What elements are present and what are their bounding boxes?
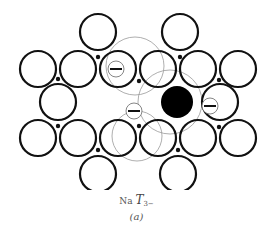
- interstitial-dot: [217, 78, 221, 82]
- atom-circle: [220, 120, 256, 156]
- atom-circle: [20, 51, 56, 87]
- atom-circle: [180, 51, 216, 87]
- interstitial-dot: [176, 148, 180, 152]
- figure-caption: Na T3−: [0, 193, 273, 207]
- caption-prefix: Na: [119, 196, 132, 206]
- interstitial-dot: [178, 55, 182, 59]
- atom-circle: [162, 14, 198, 50]
- atom-circle: [160, 156, 196, 190]
- interstitial-dot: [56, 124, 60, 128]
- atom-circle: [220, 51, 256, 87]
- atom-circle: [140, 51, 176, 87]
- filled-atom: [161, 86, 193, 118]
- atom-circle: [140, 120, 176, 156]
- figure-panel-label: (a): [0, 211, 273, 222]
- atom-circle: [40, 84, 76, 120]
- interstitial-dot: [96, 55, 100, 59]
- crystal-structure-diagram: [0, 0, 273, 190]
- atom-circle: [20, 120, 56, 156]
- atom-circle: [60, 51, 96, 87]
- caption-subscript: 3−: [143, 200, 153, 208]
- interstitial-site-dots: [56, 55, 221, 152]
- atom-circle: [60, 120, 96, 156]
- interstitial-dot: [137, 124, 141, 128]
- atom-circle: [100, 120, 136, 156]
- atom-circle: [80, 156, 116, 190]
- interstitial-dot: [137, 79, 141, 83]
- filled-central-atom: [161, 86, 193, 118]
- atom-circle: [180, 120, 216, 156]
- interstitial-dot: [56, 77, 60, 81]
- interstitial-dot: [96, 148, 100, 152]
- interstitial-dot: [217, 125, 221, 129]
- atom-circle: [80, 14, 116, 50]
- negative-ion-markers: [108, 61, 218, 119]
